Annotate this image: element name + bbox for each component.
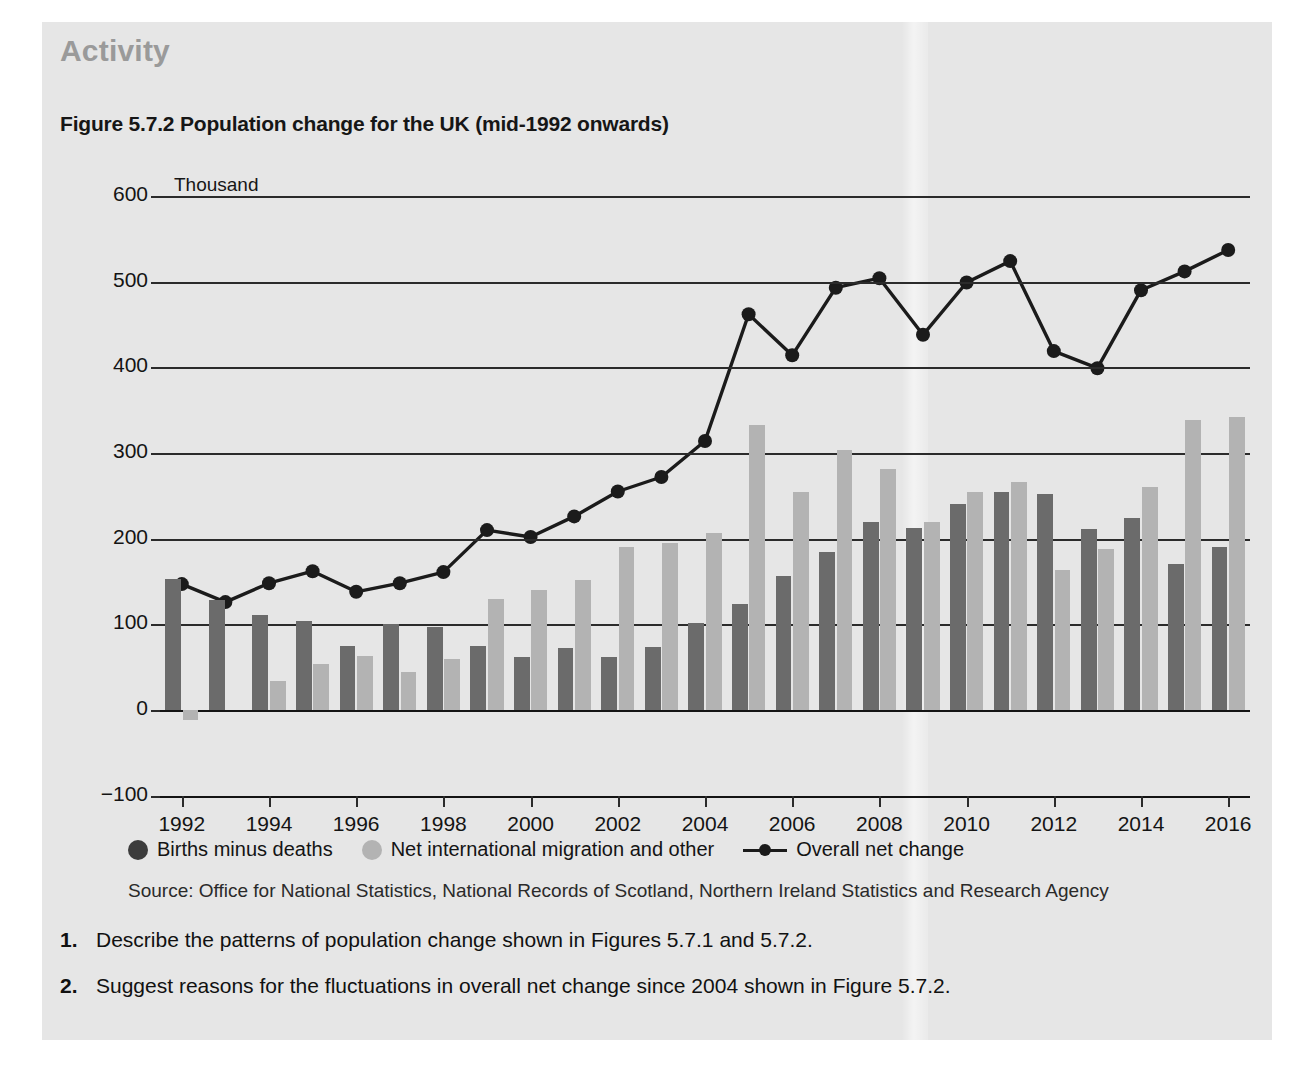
legend-swatch-dark-circle-icon [128,840,148,860]
y-axis-label-100: 100 [68,610,148,634]
bar-births-minus-deaths-2016 [1212,547,1228,710]
activity-heading: Activity [60,34,170,68]
plot-area: −100010020030040050060019921994199619982… [160,160,1250,820]
bar-births-minus-deaths-2004 [688,623,704,710]
zero-axis-line [160,710,1250,712]
bar-net-migration-1992 [183,710,199,720]
y-axis-label-600: 600 [68,182,148,206]
bar-births-minus-deaths-2008 [863,522,879,710]
overall-net-change-point-2006 [785,348,799,362]
x-axis-tick-2008 [879,796,881,807]
y-axis-tick-200 [151,539,160,541]
bar-births-minus-deaths-2011 [994,492,1010,710]
overall-net-change-point-2003 [654,470,668,484]
questions-list: 1. Describe the patterns of population c… [60,928,1240,1020]
bar-net-migration-2014 [1142,487,1158,710]
bar-net-migration-2001 [575,580,591,710]
overall-net-change-point-2011 [1003,254,1017,268]
bar-net-migration-2000 [531,590,547,710]
x-axis-label-2002: 2002 [573,812,663,836]
overall-net-change-point-2002 [611,485,625,499]
bar-births-minus-deaths-2009 [906,528,922,710]
overall-net-change-point-1995 [306,564,320,578]
bar-births-minus-deaths-2014 [1124,518,1140,710]
question-item: 2. Suggest reasons for the fluctuations … [60,974,1240,998]
x-axis-label-2014: 2014 [1096,812,1186,836]
question-number: 2. [60,974,82,998]
bar-net-migration-2007 [837,450,853,710]
bar-net-migration-2006 [793,492,809,710]
x-axis-tick-2004 [705,796,707,807]
overall-net-change-point-2004 [698,434,712,448]
bar-births-minus-deaths-2012 [1037,494,1053,710]
x-axis-tick-2010 [967,796,969,807]
bar-net-migration-2002 [619,547,635,710]
gridline-600 [160,196,1250,198]
overall-net-change-point-2015 [1178,264,1192,278]
overall-net-change-point-2012 [1047,344,1061,358]
bar-net-migration-2005 [749,425,765,710]
bar-net-migration-1999 [488,599,504,710]
bar-births-minus-deaths-1997 [383,624,399,710]
chart-legend: Births minus deaths Net international mi… [128,838,980,861]
y-axis-tick-100 [151,624,160,626]
y-axis-label--100: −100 [68,782,148,806]
bar-births-minus-deaths-2001 [558,648,574,710]
legend-line-marker-icon [743,840,787,860]
bar-births-minus-deaths-2007 [819,552,835,710]
x-axis-tick-2006 [792,796,794,807]
legend-item-overall-net-change: Overall net change [743,838,964,861]
x-axis-label-1992: 1992 [137,812,227,836]
bar-net-migration-2013 [1098,549,1114,710]
x-axis-label-2016: 2016 [1183,812,1273,836]
bar-net-migration-2010 [967,492,983,710]
overall-net-change-point-2009 [916,328,930,342]
bar-births-minus-deaths-1999 [470,646,486,710]
page-root: Activity Figure 5.7.2 Population change … [0,0,1311,1084]
bar-births-minus-deaths-1996 [340,646,356,710]
x-axis-tick-1992 [182,796,184,807]
bar-net-migration-2008 [880,469,896,710]
overall-net-change-point-2005 [742,307,756,321]
bar-births-minus-deaths-1998 [427,627,443,710]
bar-net-migration-2004 [706,533,722,710]
overall-net-change-point-1997 [393,576,407,590]
figure-title: Figure 5.7.2 Population change for the U… [60,112,669,136]
x-axis-label-2000: 2000 [486,812,576,836]
x-axis-tick-2000 [531,796,533,807]
bar-births-minus-deaths-1992 [165,579,181,710]
overall-net-change-point-2001 [567,509,581,523]
overall-net-change-line [160,160,1250,820]
x-axis-tick-2002 [618,796,620,807]
bar-births-minus-deaths-2003 [645,647,661,710]
bar-births-minus-deaths-1994 [252,615,268,710]
bar-net-migration-1996 [357,656,373,710]
overall-net-change-point-1998 [436,565,450,579]
bar-net-migration-2003 [662,543,678,710]
y-axis-tick-0 [151,710,160,712]
x-axis-tick-1998 [443,796,445,807]
x-axis-label-1998: 1998 [398,812,488,836]
overall-net-change-point-2014 [1134,283,1148,297]
overall-net-change-point-1996 [349,585,363,599]
y-axis-label-400: 400 [68,353,148,377]
gridline-400 [160,367,1250,369]
y-axis-tick-600 [151,196,160,198]
x-axis-label-2012: 2012 [1009,812,1099,836]
x-axis-label-2004: 2004 [660,812,750,836]
question-text: Describe the patterns of population chan… [96,928,813,952]
legend-swatch-light-circle-icon [362,840,382,860]
overall-net-change-point-1999 [480,523,494,537]
bar-births-minus-deaths-2010 [950,504,966,710]
y-axis-tick--100 [151,796,160,798]
bar-net-migration-2015 [1185,420,1201,710]
legend-item-births-minus-deaths: Births minus deaths [128,838,333,861]
bar-births-minus-deaths-2006 [776,576,792,710]
x-axis-tick-2014 [1141,796,1143,807]
x-axis-tick-2012 [1054,796,1056,807]
question-item: 1. Describe the patterns of population c… [60,928,1240,952]
gridline-300 [160,453,1250,455]
x-axis-label-1996: 1996 [311,812,401,836]
question-number: 1. [60,928,82,952]
y-axis-tick-400 [151,367,160,369]
